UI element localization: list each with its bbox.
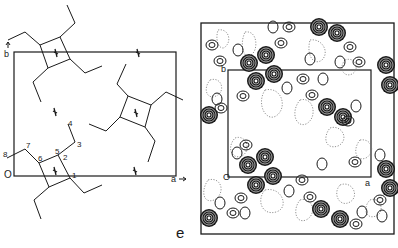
map-b-axis-label: b <box>221 64 226 74</box>
screw-axis-icon <box>53 108 57 116</box>
atom-label-2: 2 <box>63 153 68 162</box>
map-a-axis-label: a <box>365 178 370 188</box>
molecule-top <box>8 5 102 102</box>
left-panel-packing-diagram: 1 2 3 4 5 6 7 8 O a b <box>3 5 186 219</box>
atom-label-8: 8 <box>3 150 8 159</box>
right-panel-contour-map: O a b <box>200 18 398 234</box>
map-origin-label: O <box>223 172 230 182</box>
a-axis-label: a <box>171 174 176 184</box>
crystal-structure-figure: 1 2 3 4 5 6 7 8 O a b <box>0 0 398 248</box>
atom-label-1: 1 <box>72 171 77 180</box>
screw-axis-icon <box>53 167 57 175</box>
screw-axis-icon <box>54 49 58 57</box>
atom-label-5: 5 <box>55 147 60 156</box>
panel-label: e <box>176 224 184 241</box>
screw-axis-icon <box>133 167 137 175</box>
atom-label-3: 3 <box>77 140 82 149</box>
map-border <box>201 23 394 234</box>
b-axis-arrow-icon <box>6 42 10 48</box>
atom-label-7: 7 <box>26 141 31 150</box>
atom-label-4: 4 <box>68 119 73 128</box>
screw-axis-icon <box>136 49 140 57</box>
atom-label-6: 6 <box>38 154 43 163</box>
origin-label: O <box>4 169 12 180</box>
screw-axis-icon <box>134 109 138 117</box>
b-axis-label: b <box>4 49 9 59</box>
a-axis-arrow-icon <box>179 177 186 181</box>
